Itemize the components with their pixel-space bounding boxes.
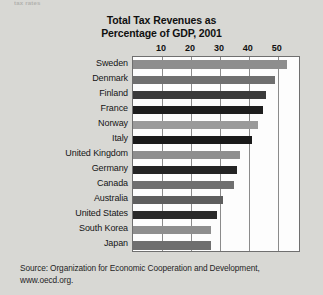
bar-italy	[133, 136, 252, 144]
bar-row	[133, 136, 299, 144]
chart-title-line-2: Percentage of GDP, 2001	[0, 27, 323, 40]
bar-australia	[133, 196, 223, 204]
bar-norway	[133, 121, 258, 129]
category-label-finland: Finland	[99, 88, 128, 98]
category-label-denmark: Denmark	[92, 73, 128, 83]
category-labels: SwedenDenmarkFinlandFranceNorwayItalyUni…	[10, 56, 128, 252]
chart-figure: Total Tax Revenues as Percentage of GDP,…	[0, 0, 323, 295]
plot-area	[132, 56, 300, 252]
bar-canada	[133, 181, 234, 189]
bar-united-kingdom	[133, 151, 240, 159]
x-tick-label-30: 30	[214, 43, 224, 53]
bar-row	[133, 91, 299, 99]
x-tick-label-10: 10	[156, 43, 166, 53]
category-label-japan: Japan	[104, 238, 128, 248]
bar-denmark	[133, 76, 275, 84]
bar-row	[133, 121, 299, 129]
source-line-2: www.oecd.org.	[20, 275, 310, 287]
category-label-italy: Italy	[112, 133, 128, 143]
category-label-united-kingdom: United Kingdom	[65, 148, 128, 158]
x-tick-label-20: 20	[185, 43, 195, 53]
bar-row	[133, 106, 299, 114]
category-label-united-states: United States	[75, 208, 128, 218]
bar-row	[133, 166, 299, 174]
bar-germany	[133, 166, 237, 174]
bar-france	[133, 106, 263, 114]
bar-row	[133, 60, 299, 68]
bar-finland	[133, 91, 266, 99]
bar-row	[133, 211, 299, 219]
bar-row	[133, 181, 299, 189]
chart-title: Total Tax Revenues as Percentage of GDP,…	[0, 14, 323, 39]
chart-title-line-1: Total Tax Revenues as	[0, 14, 323, 27]
category-label-norway: Norway	[98, 118, 128, 128]
category-label-germany: Germany	[92, 163, 128, 173]
bar-united-states	[133, 211, 217, 219]
bar-row	[133, 196, 299, 204]
bar-row	[133, 241, 299, 249]
bar-row	[133, 76, 299, 84]
bar-south-korea	[133, 226, 211, 234]
source-note: Source: Organization for Economic Cooper…	[20, 263, 310, 286]
bar-row	[133, 151, 299, 159]
category-label-sweden: Sweden	[96, 58, 128, 68]
x-tick-label-50: 50	[272, 43, 282, 53]
source-line-1: Source: Organization for Economic Cooper…	[20, 263, 310, 275]
bar-japan	[133, 241, 211, 249]
category-label-canada: Canada	[97, 178, 128, 188]
bar-sweden	[133, 60, 287, 68]
bar-rows	[133, 57, 299, 251]
category-label-australia: Australia	[94, 193, 128, 203]
x-tick-label-40: 40	[243, 43, 253, 53]
category-label-south-korea: South Korea	[79, 223, 128, 233]
category-label-france: France	[101, 103, 128, 113]
bar-row	[133, 226, 299, 234]
x-axis-tick-labels: 1020304050	[132, 43, 300, 56]
